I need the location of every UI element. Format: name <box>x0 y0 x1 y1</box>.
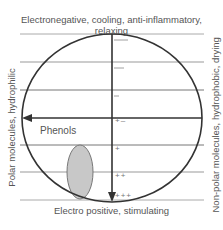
axis-mark-plus: + <box>115 144 121 153</box>
axis-mark-plus-plus: ++ <box>115 171 126 180</box>
right-label: Non-polar molecules, hydrophobic, drying <box>210 43 221 213</box>
axis-mark-plus-plus-plus: +++ <box>115 191 132 200</box>
bottom-label: Electro positive, stimulating <box>0 205 223 216</box>
top-label-line-2: relaxing <box>95 25 128 36</box>
phenol-region-ellipse <box>67 145 93 199</box>
axis-mark-plus-minus: +– <box>115 116 126 125</box>
left-arrowhead-icon <box>22 114 32 122</box>
top-label-line-1: Electronegative, cooling, anti-inflammat… <box>21 14 202 25</box>
top-label: Electronegative, cooling, anti-inflammat… <box>0 14 223 36</box>
phenols-label: Phenols <box>40 125 76 136</box>
left-label: Polar molecules, hydrophilic <box>6 43 17 213</box>
